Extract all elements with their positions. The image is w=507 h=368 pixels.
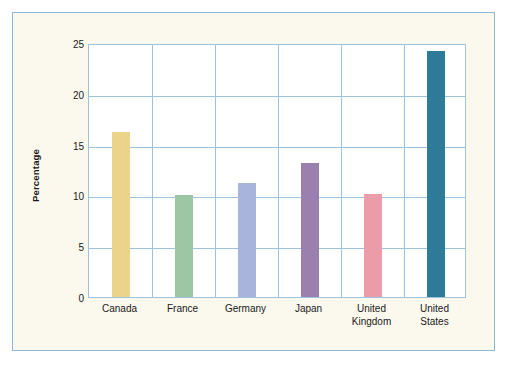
x-tick-label-united-states: United States xyxy=(403,303,466,328)
bar-canada[interactable] xyxy=(112,132,130,297)
y-tick-label-20: 20 xyxy=(58,89,84,100)
x-tick-text-united-kingdom-line1: United xyxy=(357,303,386,314)
bar-japan[interactable] xyxy=(301,163,319,297)
y-axis-title-text: Percentage xyxy=(31,148,42,201)
y-tick-label-0: 0 xyxy=(58,293,84,304)
x-tick-label-canada: Canada xyxy=(88,303,151,316)
y-tick-label-15: 15 xyxy=(58,140,84,151)
x-tick-text-japan: Japan xyxy=(295,303,322,314)
x-tick-label-germany: Germany xyxy=(214,303,277,316)
bar-united-states[interactable] xyxy=(427,51,445,297)
bar-chart-figure: Percentage 25 20 15 10 5 0 Canada xyxy=(0,0,507,368)
y-tick-label-5: 5 xyxy=(58,242,84,253)
y-tick-label-25: 25 xyxy=(58,39,84,50)
x-tick-text-united-states-line2: States xyxy=(420,316,448,327)
x-tick-text-united-states-line1: United xyxy=(420,303,449,314)
x-tick-label-france: France xyxy=(151,303,214,316)
x-tick-label-japan: Japan xyxy=(277,303,340,316)
x-tick-text-canada: Canada xyxy=(102,303,137,314)
x-tick-text-united-kingdom-line2: Kingdom xyxy=(352,316,391,327)
bar-germany[interactable] xyxy=(238,183,256,297)
y-tick-label-10: 10 xyxy=(58,191,84,202)
y-axis-tick-labels: 25 20 15 10 5 0 xyxy=(52,0,84,368)
bar-france[interactable] xyxy=(175,195,193,297)
x-tick-text-germany: Germany xyxy=(225,303,266,314)
bar-united-kingdom[interactable] xyxy=(364,194,382,297)
x-axis-tick-labels: Canada France Germany Japan United Kingd… xyxy=(88,303,466,353)
plot-area xyxy=(88,44,466,298)
bar-series xyxy=(89,45,465,297)
x-tick-text-france: France xyxy=(167,303,198,314)
y-axis-title: Percentage xyxy=(26,120,46,230)
x-tick-label-united-kingdom: United Kingdom xyxy=(340,303,403,328)
